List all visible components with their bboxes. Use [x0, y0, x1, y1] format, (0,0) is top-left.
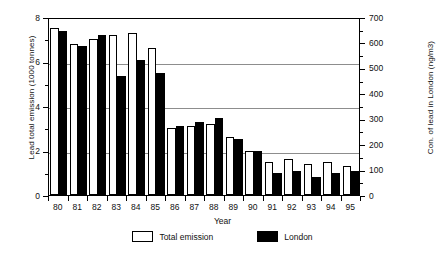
y-tick-left-2 [43, 152, 48, 153]
bar-london-84 [137, 60, 146, 195]
y-tick-label-right-600: 600 [369, 39, 391, 47]
y-tick-right-400 [360, 94, 365, 95]
x-tick-91 [263, 196, 264, 201]
bar-total-emission-94 [323, 162, 332, 195]
y-minor-tick-right-150 [360, 158, 363, 159]
y-tick-left-6 [43, 63, 48, 64]
bar-london-87 [195, 122, 204, 195]
y-tick-label-left-8: 8 [28, 14, 40, 22]
legend-item-total-emission: Total emission [132, 231, 213, 242]
y-tick-right-100 [360, 171, 365, 172]
y-minor-tick-right-550 [360, 56, 363, 57]
y-tick-right-700 [360, 18, 365, 19]
bar-total-emission-81 [70, 44, 79, 195]
bar-london-92 [293, 171, 302, 195]
bar-total-emission-95 [343, 166, 352, 195]
x-tick-83 [107, 196, 108, 201]
bar-total-emission-80 [50, 28, 59, 195]
bar-london-85 [156, 73, 165, 195]
x-tick-80 [48, 196, 49, 201]
x-tick-81 [68, 196, 69, 201]
x-tick-end [360, 196, 361, 201]
bar-total-emission-86 [167, 128, 176, 195]
legend-swatch-london [257, 231, 278, 242]
bar-total-emission-85 [148, 48, 157, 195]
x-axis-title: Year [0, 216, 445, 226]
y-tick-label-left-2: 2 [28, 147, 40, 155]
x-tick-84 [126, 196, 127, 201]
bar-london-90 [254, 151, 263, 196]
bar-london-94 [332, 173, 341, 195]
x-tick-86 [165, 196, 166, 201]
y-tick-label-right-200: 200 [369, 141, 391, 149]
y-tick-label-right-400: 400 [369, 90, 391, 98]
y-minor-tick-left-3 [45, 129, 48, 130]
y-axis-title-right: Con. of lead in London (ng/m3) [426, 18, 435, 178]
x-tick-88 [204, 196, 205, 201]
x-tick-82 [87, 196, 88, 201]
bar-total-emission-90 [245, 151, 254, 196]
y-tick-label-right-0: 0 [369, 192, 391, 200]
y-tick-label-right-100: 100 [369, 166, 391, 174]
y-tick-right-300 [360, 120, 365, 121]
x-tick-94 [321, 196, 322, 201]
bar-total-emission-93 [304, 164, 313, 195]
bar-total-emission-88 [206, 124, 215, 195]
y-tick-label-right-300: 300 [369, 115, 391, 123]
x-tick-95 [341, 196, 342, 201]
y-minor-tick-right-250 [360, 132, 363, 133]
y-minor-tick-left-5 [45, 85, 48, 86]
legend-item-london: London [257, 231, 312, 242]
y-minor-tick-right-450 [360, 82, 363, 83]
y-tick-label-left-4: 4 [28, 103, 40, 111]
bar-total-emission-87 [187, 126, 196, 195]
y-tick-label-left-0: 0 [28, 192, 40, 200]
bar-london-91 [273, 173, 282, 195]
bar-total-emission-89 [226, 137, 235, 195]
y-minor-tick-right-350 [360, 107, 363, 108]
x-tick-85 [146, 196, 147, 201]
bar-london-80 [59, 31, 68, 195]
y-minor-tick-left-7 [45, 40, 48, 41]
x-tick-label-95: 95 [339, 202, 361, 212]
bar-london-86 [176, 126, 185, 195]
bar-total-emission-91 [265, 162, 274, 195]
legend-swatch-total-emission [132, 231, 153, 242]
y-tick-label-right-700: 700 [369, 14, 391, 22]
legend-label-total-emission: Total emission [159, 232, 213, 242]
x-tick-90 [243, 196, 244, 201]
y-minor-tick-right-50 [360, 183, 363, 184]
bar-london-95 [351, 171, 360, 195]
bar-total-emission-82 [89, 39, 98, 195]
bar-london-89 [234, 139, 243, 195]
bar-london-93 [312, 177, 321, 195]
bar-london-82 [98, 35, 107, 195]
y-tick-label-right-500: 500 [369, 64, 391, 72]
x-tick-92 [282, 196, 283, 201]
bar-london-81 [78, 46, 87, 195]
x-tick-93 [302, 196, 303, 201]
y-minor-tick-right-650 [360, 31, 363, 32]
y-tick-right-200 [360, 145, 365, 146]
y-tick-left-4 [43, 107, 48, 108]
y-tick-right-500 [360, 69, 365, 70]
chart-figure: Lead total emission (1000 tonnes) Con. o… [0, 0, 445, 253]
bar-total-emission-83 [109, 35, 118, 195]
y-tick-right-600 [360, 43, 365, 44]
legend-label-london: London [284, 232, 312, 242]
y-tick-label-left-6: 6 [28, 58, 40, 66]
bar-total-emission-84 [128, 33, 137, 195]
x-tick-89 [224, 196, 225, 201]
y-minor-tick-left-1 [45, 174, 48, 175]
y-tick-left-8 [43, 18, 48, 19]
chart-legend: Total emission London [0, 231, 445, 242]
plot-area [48, 18, 360, 196]
bar-london-88 [215, 118, 224, 195]
bar-london-83 [117, 76, 126, 195]
bar-total-emission-92 [284, 159, 293, 195]
x-tick-87 [185, 196, 186, 201]
